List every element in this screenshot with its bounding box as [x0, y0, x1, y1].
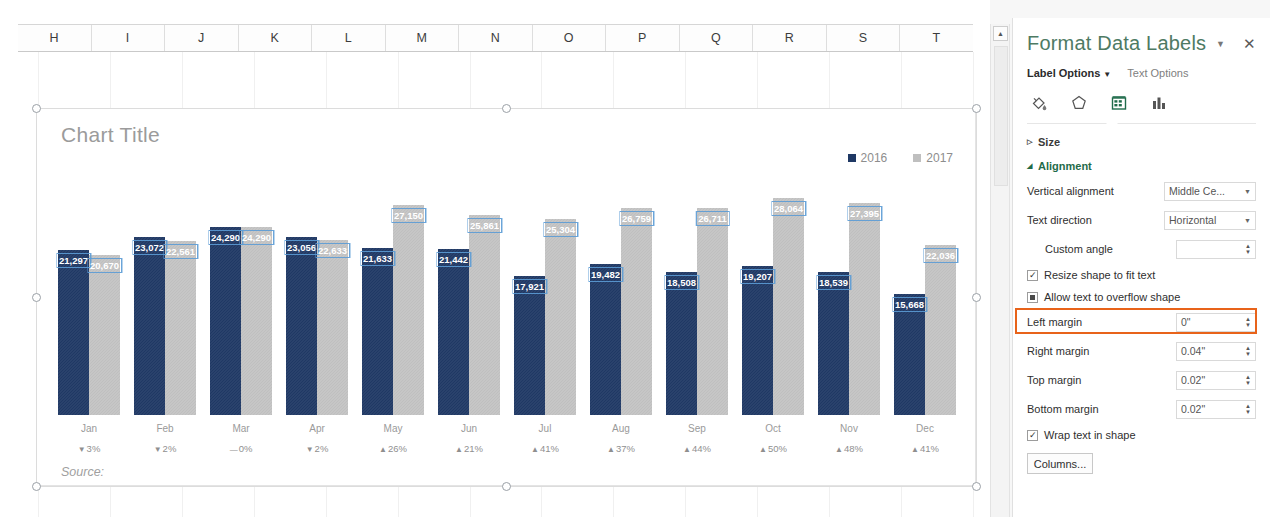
chevron-down-icon[interactable]: ▼: [1244, 217, 1251, 224]
pane-tab-label-options[interactable]: Label Options▼: [1027, 67, 1111, 79]
bar-2016-may[interactable]: 21,633: [362, 248, 393, 415]
select-text-direction[interactable]: Horizontal▼: [1164, 211, 1256, 230]
bar-group-dec[interactable]: 15,66822,036: [894, 245, 956, 415]
data-label[interactable]: 21,633: [361, 252, 394, 265]
chart-resize-handle[interactable]: [32, 482, 41, 491]
data-label[interactable]: 27,150: [392, 209, 425, 222]
bar-2016-oct[interactable]: 19,207: [742, 266, 773, 415]
data-label[interactable]: 19,482: [589, 268, 622, 281]
column-header-s[interactable]: S: [827, 25, 901, 51]
data-label[interactable]: 22,633: [316, 244, 349, 257]
data-label[interactable]: 27,395: [848, 207, 881, 220]
chart-resize-handle[interactable]: [972, 104, 981, 113]
bar-group-aug[interactable]: 19,48226,759: [590, 208, 652, 415]
checkbox-icon[interactable]: [1027, 292, 1038, 303]
chart-legend[interactable]: 20162017: [848, 151, 953, 165]
section-alignment[interactable]: ◢ Alignment: [1027, 160, 1256, 172]
bar-group-sep[interactable]: 18,50826,711: [666, 208, 728, 415]
data-label[interactable]: 17,921: [513, 280, 546, 293]
bar-2016-mar[interactable]: 24,290: [210, 227, 241, 415]
column-header-k[interactable]: K: [239, 25, 313, 51]
bar-2016-aug[interactable]: 19,482: [590, 264, 621, 415]
vertical-scrollbar[interactable]: ▲: [990, 24, 1010, 517]
column-header-q[interactable]: Q: [680, 25, 754, 51]
checkbox-allow-text-to-overflow-shape[interactable]: Allow text to overflow shape: [1027, 291, 1256, 303]
column-header-h[interactable]: H: [18, 25, 92, 51]
chevron-down-icon[interactable]: ▼: [1216, 39, 1225, 49]
data-label[interactable]: 21,442: [437, 253, 470, 266]
data-label[interactable]: 24,290: [240, 231, 273, 244]
column-header-o[interactable]: O: [533, 25, 607, 51]
category-tick-aug[interactable]: Aug▲37%: [590, 423, 652, 454]
legend-item-2016[interactable]: 2016: [848, 151, 888, 165]
spinner-custom-angle[interactable]: ▲▼: [1176, 240, 1256, 259]
bar-2016-dec[interactable]: 15,668: [894, 294, 925, 415]
chevron-down-icon[interactable]: ▼: [1103, 70, 1111, 79]
bar-group-jul[interactable]: 17,92125,304: [514, 219, 576, 415]
chart-title[interactable]: Chart Title: [61, 123, 160, 147]
chart-object[interactable]: Chart Title 20162017 21,29720,67023,0722…: [36, 108, 976, 486]
category-tick-jul[interactable]: Jul▲41%: [514, 423, 576, 454]
chart-resize-handle[interactable]: [502, 104, 511, 113]
bar-2017-may[interactable]: 27,150: [393, 205, 424, 415]
data-label[interactable]: 19,207: [741, 270, 774, 283]
category-tick-mar[interactable]: Mar—0%: [210, 423, 272, 454]
bar-2017-apr[interactable]: 22,633: [317, 240, 348, 415]
data-label[interactable]: 21,297: [57, 254, 90, 267]
bar-group-apr[interactable]: 23,05622,633: [286, 237, 348, 415]
bar-group-mar[interactable]: 24,29024,290: [210, 227, 272, 415]
plot-area[interactable]: 21,29720,67023,07222,56124,29024,29023,0…: [51, 183, 961, 415]
spinner-left-margin[interactable]: 0"▲▼: [1176, 313, 1256, 332]
column-header-n[interactable]: N: [459, 25, 533, 51]
checkbox-wrap-text-in-shape[interactable]: ✓Wrap text in shape: [1027, 429, 1256, 441]
spinner-arrows-icon[interactable]: ▲▼: [1245, 403, 1251, 415]
category-tick-oct[interactable]: Oct▲50%: [742, 423, 804, 454]
bar-group-feb[interactable]: 23,07222,561: [134, 237, 196, 415]
chart-resize-handle[interactable]: [32, 293, 41, 302]
bar-group-jan[interactable]: 21,29720,670: [58, 250, 120, 415]
spinner-arrows-icon[interactable]: ▲▼: [1245, 316, 1251, 328]
spinner-arrows-icon[interactable]: ▲▼: [1245, 243, 1251, 255]
category-tick-apr[interactable]: Apr▼2%: [286, 423, 348, 454]
columns-button[interactable]: Columns...: [1027, 453, 1093, 474]
bar-2017-jan[interactable]: 20,670: [89, 255, 120, 415]
column-header-t[interactable]: T: [900, 25, 973, 51]
category-tick-sep[interactable]: Sep▲44%: [666, 423, 728, 454]
data-label[interactable]: 18,539: [817, 276, 850, 289]
spinner-top-margin[interactable]: 0.02"▲▼: [1176, 371, 1256, 390]
category-tick-jan[interactable]: Jan▼3%: [58, 423, 120, 454]
checkbox-icon[interactable]: ✓: [1027, 430, 1038, 441]
checkbox-icon[interactable]: ✓: [1027, 270, 1038, 281]
bar-group-oct[interactable]: 19,20728,064: [742, 198, 804, 415]
category-tick-feb[interactable]: Feb▼2%: [134, 423, 196, 454]
category-tick-dec[interactable]: Dec▲41%: [894, 423, 956, 454]
data-label[interactable]: 18,508: [665, 276, 698, 289]
column-header-i[interactable]: I: [92, 25, 166, 51]
size-and-properties-icon[interactable]: [1107, 91, 1131, 115]
bar-2016-jan[interactable]: 21,297: [58, 250, 89, 415]
bar-2017-aug[interactable]: 26,759: [621, 208, 652, 415]
label-options-icon[interactable]: [1147, 91, 1171, 115]
category-tick-nov[interactable]: Nov▲48%: [818, 423, 880, 454]
chart-resize-handle[interactable]: [32, 104, 41, 113]
bar-group-jun[interactable]: 21,44225,861: [438, 215, 500, 415]
chart-resize-handle[interactable]: [972, 482, 981, 491]
bar-2017-oct[interactable]: 28,064: [773, 198, 804, 415]
data-label[interactable]: 15,668: [893, 298, 926, 311]
column-header-p[interactable]: P: [606, 25, 680, 51]
column-header-j[interactable]: J: [165, 25, 239, 51]
bar-2016-jul[interactable]: 17,921: [514, 276, 545, 415]
spinner-value[interactable]: 0": [1181, 316, 1191, 328]
data-label[interactable]: 24,290: [209, 231, 242, 244]
spinner-value[interactable]: 0.04": [1181, 345, 1205, 357]
fill-and-line-icon[interactable]: [1027, 91, 1051, 115]
bar-2016-nov[interactable]: 18,539: [818, 272, 849, 415]
bar-2017-sep[interactable]: 26,711: [697, 208, 728, 415]
scrollbar-thumb[interactable]: [994, 46, 1008, 186]
spinner-bottom-margin[interactable]: 0.02"▲▼: [1176, 400, 1256, 419]
bar-2017-mar[interactable]: 24,290: [241, 227, 272, 415]
bar-2016-sep[interactable]: 18,508: [666, 272, 697, 415]
pane-tab-text-options[interactable]: Text Options: [1127, 67, 1188, 79]
chart-resize-handle[interactable]: [502, 482, 511, 491]
column-header-r[interactable]: R: [753, 25, 827, 51]
